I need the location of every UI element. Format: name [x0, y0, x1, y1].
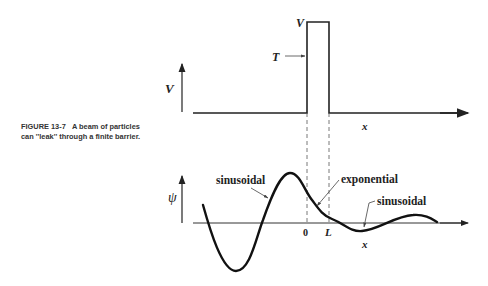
sinusoidal-left-annotation: sinusoidal — [216, 174, 265, 186]
sinusoidal-left-pointer-icon — [251, 188, 268, 198]
sinusoidal-right-annotation: sinusoidal — [377, 195, 426, 207]
v-axis-label: V — [165, 81, 175, 96]
barrier-potential-line — [193, 22, 462, 113]
x-axis-label-top: x — [361, 120, 368, 132]
barrier-height-label: V — [296, 16, 305, 30]
psi-axis-label: ψ — [168, 190, 177, 205]
wavefunction-plot: ψ 0 L x sinusoidal exponential sinusoida… — [168, 173, 468, 271]
exponential-pointer-icon — [317, 180, 339, 206]
x-axis-label-bottom: x — [361, 238, 368, 250]
potential-plot: V V T x — [165, 16, 468, 132]
barrier-figure: V V T x ψ 0 L x sinusoidal exponential s… — [0, 0, 488, 286]
tick-L: L — [324, 226, 332, 238]
wavefunction-curve — [203, 173, 437, 271]
energy-label: T — [272, 50, 280, 64]
tick-zero: 0 — [303, 227, 308, 238]
exponential-annotation: exponential — [341, 173, 398, 186]
